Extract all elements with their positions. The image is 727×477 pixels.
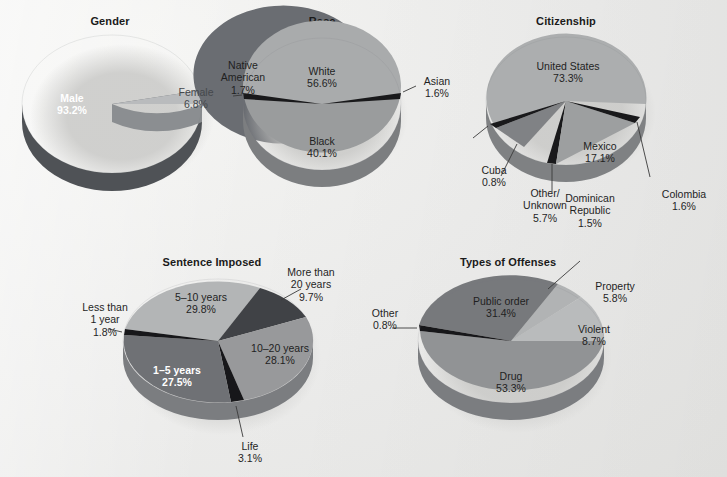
slice-label-female: Female 6.8%: [178, 86, 213, 111]
slice-label-life: Life 3.1%: [238, 440, 262, 465]
slice-label-other-unknown: Other/ Unknown 5.7%: [523, 187, 567, 224]
slice-name: Male: [60, 92, 83, 104]
slice-name: United States: [536, 60, 599, 72]
slice-name-line1: Other/: [530, 187, 559, 199]
slice-name-line1: Dominican: [565, 192, 615, 204]
slice-name: Public order: [473, 295, 529, 307]
slice-name-line2: Republic: [565, 205, 615, 217]
slice-name: Violent: [578, 323, 610, 335]
slice-name: 5–10 years: [175, 291, 227, 303]
slice-label-cuba: Cuba 0.8%: [481, 164, 506, 189]
slice-name: 10–20 years: [251, 342, 309, 354]
slice-pct: 5.8%: [595, 292, 635, 304]
slice-pct: 17.1%: [583, 152, 616, 164]
slice-label-native-american: Native American 1.7%: [221, 59, 265, 96]
pie-race: [240, 0, 440, 220]
slice-label-public-order: Public order 31.4%: [473, 295, 529, 320]
slice-label-more-than-20-years: More than 20 years 9.7%: [287, 266, 334, 303]
slice-pct: 1.6%: [662, 200, 706, 212]
slice-label-less-than-1-year: Less than 1 year 1.8%: [82, 301, 128, 338]
slice-pct: 0.8%: [481, 176, 506, 188]
slice-pct: 56.6%: [307, 77, 337, 89]
slice-name-line1: Native: [228, 59, 258, 71]
slice-name-line2: Unknown: [523, 200, 567, 212]
slice-name-line2: American: [221, 72, 265, 84]
slice-name-line2: 1 year: [82, 314, 128, 326]
slice-pct: 3.1%: [238, 452, 262, 464]
slice-label-10-20-years: 10–20 years 28.1%: [251, 342, 309, 367]
slice-name: White: [309, 65, 336, 77]
slice-name: Other: [372, 307, 398, 319]
slice-name: Property: [595, 280, 635, 292]
slice-pct: 31.4%: [473, 307, 529, 319]
slice-pct: 28.1%: [251, 354, 309, 366]
slice-label-united-states: United States 73.3%: [536, 60, 599, 85]
slice-name: Life: [242, 440, 259, 452]
slice-name: Colombia: [662, 188, 706, 200]
slice-label-asian: Asian 1.6%: [424, 75, 450, 100]
slice-label-drug: Drug 53.3%: [496, 370, 526, 395]
pie-types-of-offenses: [398, 265, 628, 455]
slice-pct: 29.8%: [175, 303, 227, 315]
slice-name-line1: Less than: [82, 301, 128, 313]
slice-pct: 40.1%: [307, 147, 337, 159]
slice-label-1-5-years: 1–5 years 27.5%: [153, 364, 201, 389]
slice-name: Mexico: [583, 140, 616, 152]
slice-pct: 1.6%: [424, 87, 450, 99]
slice-pct: 9.7%: [287, 291, 334, 303]
slice-label-dominican-republic: Dominican Republic 1.5%: [565, 192, 615, 229]
slice-label-colombia: Colombia 1.6%: [662, 188, 706, 213]
slice-name: Cuba: [481, 164, 506, 176]
slice-label-mexico: Mexico 17.1%: [583, 140, 616, 165]
slice-name-line1: More than: [287, 266, 334, 278]
slice-name-line2: 20 years: [287, 279, 334, 291]
slice-label-white: White 56.6%: [307, 65, 337, 90]
slice-pct: 53.3%: [496, 382, 526, 394]
slice-label-other: Other 0.8%: [372, 307, 398, 332]
slice-name: 1–5 years: [153, 364, 201, 376]
slice-name: Black: [309, 135, 335, 147]
slice-pct: 5.7%: [523, 212, 567, 224]
slice-label-black: Black 40.1%: [307, 135, 337, 160]
slice-pct: 1.8%: [82, 326, 128, 338]
slice-pct: 8.7%: [578, 335, 610, 347]
slice-label-5-10-years: 5–10 years 29.8%: [175, 291, 227, 316]
slice-name: Drug: [500, 370, 523, 382]
slice-pct: 93.2%: [57, 104, 87, 116]
slice-pct: 0.8%: [372, 319, 398, 331]
slice-pct: 1.5%: [565, 217, 615, 229]
slice-name: Female: [178, 86, 213, 98]
slice-pct: 1.7%: [221, 84, 265, 96]
slice-label-violent: Violent 8.7%: [578, 323, 610, 348]
slice-name: Asian: [424, 75, 450, 87]
slice-label-male: Male 93.2%: [57, 92, 87, 117]
slice-label-property: Property 5.8%: [595, 280, 635, 305]
slice-pct: 73.3%: [536, 72, 599, 84]
slice-pct: 6.8%: [178, 98, 213, 110]
slice-pct: 27.5%: [153, 376, 201, 388]
